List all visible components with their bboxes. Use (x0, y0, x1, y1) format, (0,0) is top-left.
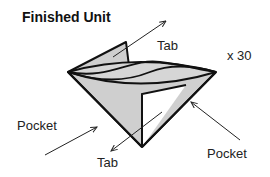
diagram-title: Finished Unit (22, 9, 111, 25)
multiplier-label: x 30 (227, 48, 252, 63)
tab-top-label: Tab (157, 38, 178, 53)
pocket-right-arrow (191, 102, 240, 140)
tab-bottom-label: Tab (97, 155, 118, 170)
pocket-right-label: Pocket (207, 146, 247, 161)
pocket-left-label: Pocket (17, 118, 57, 133)
finished-unit-diagram: Finished Unit Tab x 30 Tab Pocket Pocket (0, 0, 270, 177)
